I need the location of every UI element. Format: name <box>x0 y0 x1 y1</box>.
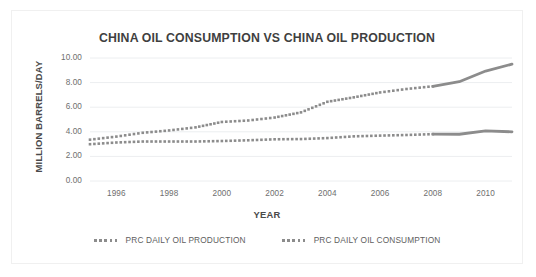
data-dot <box>295 138 298 141</box>
data-dot <box>303 110 306 113</box>
data-dot <box>401 134 404 137</box>
data-dot <box>317 137 320 140</box>
data-dot <box>307 108 310 111</box>
data-dot <box>361 135 364 138</box>
data-dot <box>247 119 250 122</box>
data-dot <box>322 137 325 140</box>
data-dot <box>238 120 241 123</box>
data-dot <box>177 140 180 143</box>
data-dot <box>379 91 382 94</box>
data-dot <box>265 138 268 141</box>
dotted-line-marker <box>94 239 120 242</box>
data-dot <box>368 93 371 96</box>
data-dot <box>256 139 259 142</box>
data-dot <box>102 137 105 140</box>
data-dot <box>155 130 158 133</box>
data-dot <box>418 86 421 89</box>
data-dot <box>269 117 272 120</box>
data-dot <box>141 140 144 143</box>
data-dot <box>106 136 109 139</box>
data-dot <box>375 92 378 95</box>
data-dot <box>388 134 391 137</box>
data-dot <box>133 141 136 144</box>
data-dot <box>326 100 329 103</box>
data-dot <box>414 133 417 136</box>
data-dot <box>159 130 162 133</box>
data-dot <box>357 135 360 138</box>
data-dot <box>163 140 166 143</box>
data-series-layer <box>89 64 512 145</box>
data-dot <box>190 140 193 143</box>
dotted-line-marker <box>282 239 308 242</box>
data-dot <box>202 125 205 128</box>
data-dot <box>150 140 153 143</box>
data-dot <box>313 137 316 140</box>
data-dot <box>269 138 272 141</box>
data-dot <box>414 87 417 90</box>
data-dot <box>198 125 201 128</box>
data-dot <box>379 134 382 137</box>
data-dot <box>238 139 241 142</box>
legend-item[interactable]: PRC DAILY OIL PRODUCTION <box>94 235 246 245</box>
data-dot <box>287 138 290 141</box>
data-dot <box>93 143 96 146</box>
data-dot <box>344 136 347 139</box>
legend-label: PRC DAILY OIL PRODUCTION <box>126 235 246 245</box>
chart-container: CHINA OIL CONSUMPTION VS CHINA OIL PRODU… <box>11 10 523 264</box>
data-dot <box>383 134 386 137</box>
data-dot <box>234 120 237 123</box>
data-dot <box>396 89 399 92</box>
data-dot <box>291 138 294 141</box>
data-dot <box>168 140 171 143</box>
data-dot <box>364 94 367 97</box>
data-dot <box>119 141 122 144</box>
data-dot <box>181 140 184 143</box>
data-dot <box>172 140 175 143</box>
data-dot <box>225 120 228 123</box>
data-dot <box>124 134 127 137</box>
data-dot <box>311 107 314 110</box>
data-dot <box>292 113 295 116</box>
data-dot <box>273 138 276 141</box>
data-dot <box>427 133 430 136</box>
data-dot <box>423 133 426 136</box>
data-dot <box>159 140 162 143</box>
data-dot <box>326 137 329 140</box>
data-dot <box>335 136 338 139</box>
data-dot <box>300 111 303 114</box>
data-dot <box>334 99 337 102</box>
data-dot <box>93 138 96 141</box>
data-dot <box>330 100 333 103</box>
data-dot <box>304 138 307 141</box>
data-dot <box>133 133 136 136</box>
data-dot <box>282 138 285 141</box>
legend-item[interactable]: PRC DAILY OIL CONSUMPTION <box>282 235 441 245</box>
data-dot <box>97 137 100 140</box>
data-dot <box>213 122 216 125</box>
data-dot <box>405 88 408 91</box>
data-dot <box>102 142 105 145</box>
series-consumption <box>89 64 512 141</box>
data-dot <box>172 129 175 132</box>
data-dot <box>221 140 224 143</box>
data-dot <box>315 105 318 108</box>
data-dot <box>371 93 374 96</box>
data-dot <box>111 141 114 144</box>
data-dot <box>106 142 109 145</box>
data-dot <box>265 117 268 120</box>
data-dot <box>203 140 206 143</box>
data-dot <box>281 115 284 118</box>
data-dot <box>146 131 149 134</box>
data-dot <box>234 139 237 142</box>
data-dot <box>251 139 254 142</box>
data-dot <box>273 116 276 119</box>
data-dot <box>115 135 118 138</box>
data-dot <box>260 139 263 142</box>
data-dot <box>392 89 395 92</box>
data-dot <box>207 140 210 143</box>
data-dot <box>194 126 197 129</box>
data-dot <box>337 99 340 102</box>
data-dot <box>256 118 259 121</box>
data-dot <box>322 102 325 105</box>
data-dot <box>155 140 158 143</box>
